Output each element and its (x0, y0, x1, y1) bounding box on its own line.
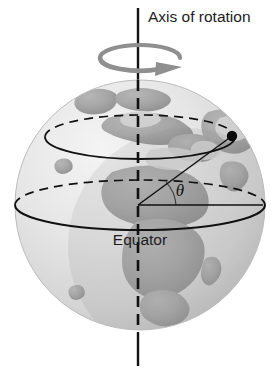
theta-angle-label: θ (176, 181, 184, 200)
rotation-arrowhead-icon (155, 62, 182, 76)
surface-point-marker (227, 131, 237, 141)
equator-label: Equator (113, 231, 167, 248)
axis-of-rotation-label: Axis of rotation (148, 8, 251, 25)
figure-root: Axis of rotation Equator θ (0, 0, 273, 368)
rotation-arrow-back-arc (100, 45, 180, 58)
rotation-arrow-front-arc (100, 58, 160, 71)
rotation-arrow-group (100, 45, 182, 76)
earth-rotation-diagram: Axis of rotation Equator θ (0, 0, 273, 368)
